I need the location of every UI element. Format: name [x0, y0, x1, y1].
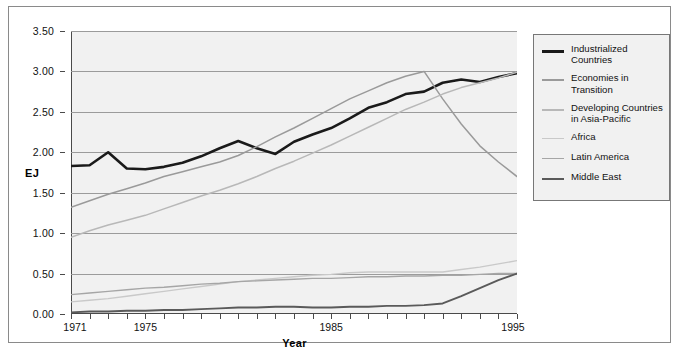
legend-line-swatch-icon: [542, 152, 564, 164]
y-tick-mark: [60, 31, 65, 32]
x-tick-label: 1971: [63, 321, 86, 333]
legend-line-swatch-icon: [542, 172, 564, 184]
x-tick-mark: [461, 314, 462, 319]
x-axis-title: Year: [71, 337, 518, 349]
figure-frame: EJ 0.000.501.001.502.002.503.003.50 1971…: [8, 6, 671, 343]
series-line: [71, 72, 517, 237]
legend-item-label: Developing Countries in Asia-Pacific: [571, 102, 663, 124]
x-tick-mark: [90, 314, 91, 319]
x-tick-mark: [238, 314, 239, 319]
legend-item-label: Economies in Transition: [571, 72, 663, 94]
y-tick-mark: [60, 233, 65, 234]
x-tick-mark: [350, 314, 351, 319]
y-tick-label: 1.50: [33, 187, 54, 199]
x-tick-mark: [406, 314, 407, 319]
y-tick-mark: [60, 274, 65, 275]
x-axis-ticks: [71, 314, 518, 320]
legend-line-swatch-icon: [542, 103, 564, 115]
plot-area: [71, 31, 517, 314]
legend-line-swatch-icon: [542, 44, 564, 56]
x-tick-mark: [71, 314, 72, 319]
x-tick-mark: [424, 314, 425, 319]
series-line: [71, 73, 517, 169]
x-tick-mark: [517, 314, 518, 319]
chart-legend: Industrialized CountriesEconomies in Tra…: [533, 34, 670, 201]
y-tick-mark: [60, 112, 65, 113]
legend-item-label: Latin America: [571, 151, 629, 162]
x-tick-mark: [275, 314, 276, 319]
legend-item[interactable]: Economies in Transition: [542, 72, 663, 94]
series-line: [71, 261, 517, 302]
x-tick-label: 1985: [319, 321, 342, 333]
y-tick-mark: [60, 152, 65, 153]
x-tick-mark: [201, 314, 202, 319]
y-tick-label: 1.00: [33, 227, 54, 239]
legend-item-label: Industrialized Countries: [571, 43, 663, 65]
x-tick-mark: [127, 314, 128, 319]
y-tick-label: 0.00: [33, 308, 54, 320]
y-tick-label: 2.00: [33, 146, 54, 158]
y-tick-mark: [60, 71, 65, 72]
x-tick-mark: [164, 314, 165, 319]
legend-item[interactable]: Middle East: [542, 171, 663, 184]
x-tick-mark: [183, 314, 184, 319]
legend-item[interactable]: Industrialized Countries: [542, 43, 663, 65]
y-tick-mark: [60, 193, 65, 194]
x-tick-mark: [331, 314, 332, 319]
legend-line-swatch-icon: [542, 73, 564, 85]
x-tick-mark: [368, 314, 369, 319]
legend-item[interactable]: Latin America: [542, 151, 663, 164]
legend-item[interactable]: Africa: [542, 131, 663, 144]
legend-item-label: Middle East: [571, 171, 621, 182]
y-tick-label: 0.50: [33, 268, 54, 280]
chart-figure: EJ 0.000.501.001.502.002.503.003.50 1971…: [0, 0, 679, 350]
x-tick-mark: [108, 314, 109, 319]
y-tick-mark: [60, 314, 65, 315]
x-tick-mark: [313, 314, 314, 319]
x-tick-label: 1975: [134, 321, 157, 333]
x-tick-mark: [387, 314, 388, 319]
x-tick-label: 1995: [501, 321, 524, 333]
y-tick-label: 3.50: [33, 25, 54, 37]
x-tick-mark: [294, 314, 295, 319]
x-tick-mark: [257, 314, 258, 319]
x-tick-mark: [498, 314, 499, 319]
chart-lines: [71, 31, 517, 314]
x-tick-mark: [145, 314, 146, 319]
legend-line-swatch-icon: [542, 132, 564, 144]
y-tick-label: 3.00: [33, 65, 54, 77]
legend-item-label: Africa: [571, 131, 596, 142]
legend-item[interactable]: Developing Countries in Asia-Pacific: [542, 102, 663, 124]
y-tick-label: 2.50: [33, 106, 54, 118]
x-axis-tick-labels: 1971197519851995: [71, 321, 518, 335]
x-tick-mark: [443, 314, 444, 319]
x-tick-mark: [480, 314, 481, 319]
x-tick-mark: [220, 314, 221, 319]
y-axis-tick-labels: 0.000.501.001.502.002.503.003.50: [9, 31, 65, 314]
